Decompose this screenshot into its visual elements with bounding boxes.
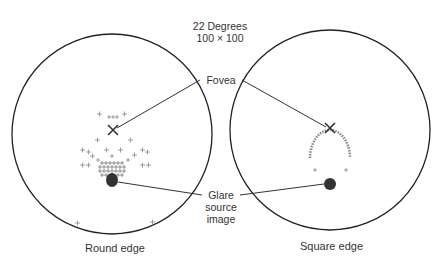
round-edge-glare-blob: [106, 173, 118, 187]
round-edge-field-circle: [12, 34, 212, 234]
square-edge-arc-points: [310, 130, 350, 158]
fovea-leader-right: [242, 80, 326, 127]
round-edge-caption: Round edge: [85, 242, 145, 254]
fovea-leader-left: [117, 80, 200, 128]
glare-source-label: Glare source image: [203, 189, 239, 225]
glare-label-line2: source: [203, 201, 239, 213]
round-edge-panel: [12, 34, 212, 234]
square-edge-glare-blob: [324, 178, 336, 190]
glare-leader-left: [118, 182, 202, 195]
square-edge-scatter-points: [313, 168, 348, 172]
glare-leader-right: [240, 184, 324, 195]
round-edge-fovea-marker-icon: [108, 125, 118, 135]
square-edge-caption: Square edge: [300, 240, 363, 252]
square-edge-fovea-marker-icon: [325, 123, 335, 133]
header-resolution: 100 × 100: [190, 32, 250, 44]
leader-lines: [117, 80, 326, 195]
square-edge-panel: [230, 30, 430, 230]
fovea-label: Fovea: [203, 74, 239, 86]
header-title: 22 Degrees 100 × 100: [190, 20, 250, 44]
glare-label-line1: Glare: [203, 189, 239, 201]
header-degrees: 22 Degrees: [190, 20, 250, 32]
glare-label-line3: image: [203, 213, 239, 225]
